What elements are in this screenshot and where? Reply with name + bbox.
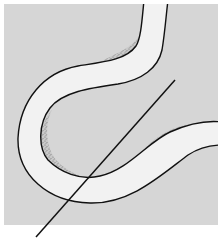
channel-diagram <box>0 0 222 240</box>
